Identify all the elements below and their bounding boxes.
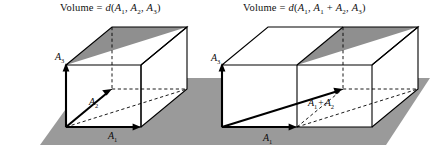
parallelepiped-diagram bbox=[0, 0, 432, 154]
vector-label-right-a1a2-sub2: 2 bbox=[331, 103, 334, 110]
caption-left-comma2: , bbox=[141, 2, 144, 13]
caption-left-volume: Volume bbox=[60, 2, 94, 13]
caption-right-comma1: , bbox=[308, 2, 311, 13]
caption-right-equals: = bbox=[280, 2, 286, 13]
caption-right-plus: + bbox=[327, 2, 333, 13]
vector-label-left-a2: A2 bbox=[89, 96, 98, 109]
caption-right: Volume = d(A1, A1 + A2, A3) bbox=[243, 2, 366, 16]
vector-label-left-a3-sub: 3 bbox=[61, 57, 64, 64]
vector-label-right-a3: A3 bbox=[211, 52, 220, 65]
vector-label-right-a1-plus-a2: A1+A2 bbox=[308, 97, 334, 110]
caption-left: Volume = d(A1, A2, A3) bbox=[60, 2, 161, 16]
caption-right-comma2: , bbox=[346, 2, 349, 13]
figure-root: Volume = d(A1, A2, A3) Volume = d(A1, A1… bbox=[0, 0, 432, 154]
caption-right-arg2a-sub: 1 bbox=[320, 8, 324, 16]
caption-right-volume: Volume bbox=[243, 2, 277, 13]
caption-left-paren-close: ) bbox=[157, 2, 161, 13]
vector-label-right-a1: A1 bbox=[263, 132, 272, 145]
vector-label-right-a3-sub: 3 bbox=[217, 58, 220, 65]
caption-left-equals: = bbox=[97, 2, 103, 13]
right-side-face bbox=[222, 65, 297, 127]
vector-label-left-a2-sub: 2 bbox=[95, 102, 98, 109]
vector-label-right-a1a2-plus: + bbox=[317, 98, 324, 108]
caption-left-comma1: , bbox=[125, 2, 128, 13]
vector-label-left-a3: A3 bbox=[55, 51, 64, 64]
vector-label-right-a1-sub: 1 bbox=[269, 138, 272, 145]
vector-label-left-a1: A1 bbox=[108, 130, 117, 143]
vector-label-left-a1-sub: 1 bbox=[114, 136, 117, 143]
caption-right-paren-close: ) bbox=[362, 2, 366, 13]
